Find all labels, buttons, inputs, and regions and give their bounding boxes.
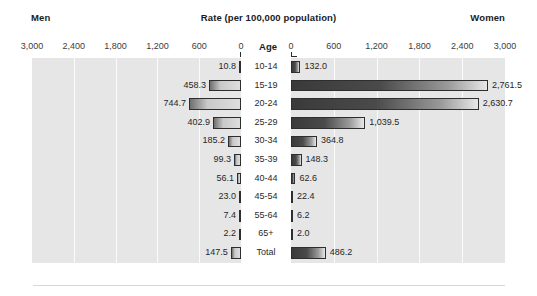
- right-axis-tick: 600: [326, 41, 341, 51]
- age-group-label: 30-34: [244, 134, 288, 147]
- men-value-label: 10.8: [0, 60, 236, 73]
- women-panel-title: Women: [470, 12, 505, 23]
- women-bar-row: [291, 95, 505, 114]
- left-axis-tick: 0: [238, 41, 243, 51]
- men-bar: [239, 229, 241, 241]
- men-value-label: 56.1: [0, 172, 234, 185]
- men-bar: [239, 191, 241, 203]
- women-value-label: 2,630.7: [483, 97, 513, 110]
- right-axis-tick: 2,400: [451, 41, 474, 51]
- women-value-label: 2,761.5: [492, 79, 522, 92]
- men-bar: [239, 61, 241, 73]
- left-axis-tick: 1,800: [104, 41, 127, 51]
- women-bar: [291, 61, 300, 73]
- left-zero-tick-icon: [240, 52, 241, 57]
- left-axis-tick: 600: [192, 41, 207, 51]
- women-value-label: 62.6: [299, 172, 317, 185]
- women-value-label: 2.0: [297, 227, 310, 240]
- women-value-label: 22.4: [297, 190, 315, 203]
- chart-figure: Men Rate (per 100,000 population) Women …: [0, 0, 537, 296]
- men-value-label: 185.2: [0, 134, 225, 147]
- left-axis-tick: 1,200: [146, 41, 169, 51]
- women-value-label: 148.3: [306, 153, 329, 166]
- women-bar: [291, 117, 365, 129]
- left-axis-tick: 3,000: [21, 41, 44, 51]
- men-bar: [231, 247, 241, 259]
- women-value-label: 1,039.5: [369, 116, 399, 129]
- women-bar: [291, 229, 293, 241]
- women-bar-row: [291, 244, 505, 263]
- age-group-label: 25-29: [244, 116, 288, 129]
- men-value-label: 7.4: [0, 209, 236, 222]
- men-bar: [189, 98, 241, 110]
- women-bar: [291, 210, 293, 222]
- men-value-label: 744.7: [0, 97, 186, 110]
- men-value-label: 147.5: [0, 246, 228, 259]
- women-bar-row: [291, 225, 505, 244]
- age-group-label: 20-24: [244, 97, 288, 110]
- women-value-label: 486.2: [330, 246, 353, 259]
- age-group-label: 55-64: [244, 209, 288, 222]
- women-bar-row: [291, 188, 505, 207]
- age-group-label: 65+: [244, 227, 288, 240]
- men-value-label: 23.0: [0, 190, 236, 203]
- age-category-column: 10-1415-1920-2425-2930-3435-3940-4445-54…: [244, 58, 290, 263]
- right-axis-tick: 3,000: [494, 41, 517, 51]
- men-bar: [239, 210, 241, 222]
- age-column-header: Age: [248, 41, 288, 52]
- women-bar: [291, 191, 293, 203]
- men-value-label: 2.2: [0, 227, 236, 240]
- women-bar-row: [291, 77, 505, 96]
- age-group-label: 45-54: [244, 190, 288, 203]
- age-group-label: 40-44: [244, 172, 288, 185]
- men-bar: [213, 117, 241, 129]
- men-value-label: 402.9: [0, 116, 210, 129]
- women-value-label: 364.8: [321, 134, 344, 147]
- age-group-label: Total: [244, 246, 288, 259]
- women-value-label: 132.0: [304, 60, 327, 73]
- chart-title: Rate (per 100,000 population): [0, 12, 537, 23]
- age-group-label: 10-14: [244, 60, 288, 73]
- men-bar: [209, 80, 241, 92]
- men-value-label: 458.3: [0, 79, 206, 92]
- women-value-label: 6.2: [297, 209, 310, 222]
- men-bar: [237, 173, 241, 185]
- right-axis-tick: 1,800: [408, 41, 431, 51]
- right-axis-tick: 1,200: [365, 41, 388, 51]
- men-value-label: 99.3: [0, 153, 231, 166]
- women-bar: [291, 247, 326, 259]
- age-group-label: 35-39: [244, 153, 288, 166]
- women-bar: [291, 136, 317, 148]
- women-bar: [291, 98, 479, 110]
- right-axis-tick: 0: [288, 41, 293, 51]
- right-baseline-tick-icon: [291, 56, 297, 57]
- women-bar: [291, 154, 302, 166]
- women-bar-row: [291, 170, 505, 189]
- men-bar: [228, 136, 241, 148]
- women-bar: [291, 173, 295, 185]
- age-group-label: 15-19: [244, 79, 288, 92]
- left-axis-tick: 2,400: [63, 41, 86, 51]
- women-bar-row: [291, 207, 505, 226]
- men-bar: [234, 154, 241, 166]
- footer-divider: [33, 285, 505, 286]
- women-bar: [291, 80, 488, 92]
